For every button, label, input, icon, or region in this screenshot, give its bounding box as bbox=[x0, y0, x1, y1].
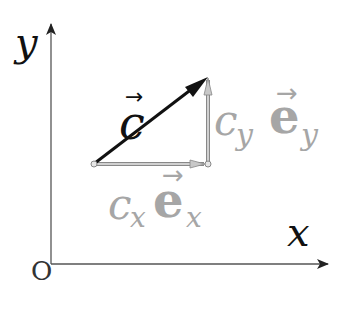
x-basis-vector: e bbox=[153, 176, 184, 224]
x-axis-label: x bbox=[287, 212, 310, 252]
x-component-arrow bbox=[94, 160, 205, 168]
start-point bbox=[91, 161, 97, 167]
origin-label: O bbox=[31, 258, 52, 284]
y-axis-label: y bbox=[15, 22, 38, 62]
x-component-label: c x → e x bbox=[108, 170, 238, 230]
vector-c-symbol: c bbox=[119, 100, 145, 146]
vector-c-label: → c bbox=[117, 86, 151, 146]
x-basis-subscript: x bbox=[186, 204, 202, 232]
y-component-label: c y → e y bbox=[214, 92, 324, 152]
y-coefficient: c bbox=[214, 100, 238, 142]
y-coefficient-subscript: y bbox=[236, 120, 253, 150]
x-coefficient: c bbox=[108, 184, 132, 226]
x-coefficient-subscript: x bbox=[130, 204, 146, 232]
corner-point bbox=[205, 161, 211, 167]
y-basis-vector: e bbox=[269, 92, 300, 140]
vector-c-arrow bbox=[95, 77, 208, 163]
y-basis-subscript: y bbox=[301, 120, 318, 150]
y-component-arrow bbox=[204, 78, 212, 164]
